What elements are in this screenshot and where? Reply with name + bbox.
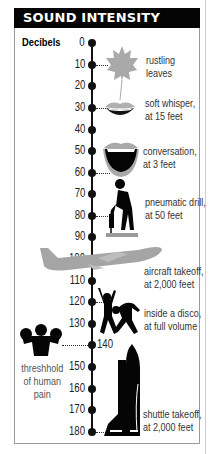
caption-pneumatic-drill: pneumatic drill, at 50 feet — [145, 196, 206, 222]
tick-label: 110 — [70, 273, 85, 287]
tick-label: 30 — [74, 100, 85, 114]
tick-dot — [88, 126, 96, 134]
tick-label: 20 — [74, 78, 85, 92]
tick-dot — [88, 428, 96, 436]
tick-dot — [88, 61, 96, 69]
caption-line: pain — [21, 388, 64, 401]
tick-dot — [88, 341, 96, 349]
caption-shuttle-takeoff: shuttle takeoff, at 2,000 feet — [143, 408, 202, 434]
tick-dot — [88, 385, 96, 393]
tick-label: 10 — [74, 57, 85, 71]
tick-dot — [88, 320, 96, 328]
tick-dot — [88, 233, 96, 241]
caption-line: pneumatic drill, — [145, 196, 206, 209]
caption-disco: inside a disco, at full volume — [144, 307, 201, 333]
tick-label: 120 — [69, 294, 85, 308]
caption-line: at full volume — [144, 320, 201, 333]
tick-label: 180 — [69, 424, 85, 438]
tick-label: 90 — [74, 229, 85, 243]
caption-line: inside a disco, — [144, 307, 201, 320]
tick-label: 40 — [74, 122, 85, 136]
caption-rustling-leaves: rustling leaves — [146, 54, 175, 80]
tick-dot — [88, 406, 96, 414]
leaf-icon — [104, 44, 140, 100]
caption-line: at 50 feet — [145, 209, 206, 222]
tick-dot — [88, 363, 96, 371]
tick-label: 150 — [69, 359, 85, 373]
tick-label: 160 — [69, 381, 85, 395]
caption-line: leaves — [146, 67, 175, 80]
caption-line: conversation, — [143, 145, 197, 158]
tick-dot — [88, 212, 96, 220]
tick-label: 50 — [74, 143, 85, 157]
tick-dot — [88, 169, 96, 177]
pain-figure-icon — [18, 324, 64, 356]
tick-label: 70 — [74, 186, 85, 200]
tick-label: 130 — [69, 316, 85, 330]
caption-line: threshhold — [21, 362, 64, 375]
caption-line: at 2,000 feet — [144, 278, 204, 291]
caption-line: of human — [21, 375, 64, 388]
caption-line: soft whisper, — [145, 97, 195, 110]
tick-dot — [88, 104, 96, 112]
tick-dot — [88, 147, 96, 155]
caption-line: at 2,000 feet — [143, 421, 202, 434]
caption-aircraft-takeoff: aircraft takeoff, at 2,000 feet — [144, 265, 204, 291]
tick-label: 0 — [80, 35, 85, 49]
open-mouth-icon — [102, 140, 140, 178]
tick-dot — [88, 190, 96, 198]
caption-conversation: conversation, at 3 feet — [143, 145, 197, 171]
caption-line: aircraft takeoff, — [144, 265, 204, 278]
caption-soft-whisper: soft whisper, at 15 feet — [145, 97, 195, 123]
caption-line: rustling — [146, 54, 175, 67]
tick-label: 60 — [74, 165, 85, 179]
y-axis-label: Decibels — [22, 36, 60, 48]
chart-title: SOUND INTENSITY — [23, 10, 160, 25]
dancers-icon — [96, 288, 142, 336]
leader-line — [62, 345, 88, 346]
tick-dot — [88, 39, 96, 47]
lips-icon — [104, 100, 136, 116]
caption-pain-threshold: threshhold of human pain — [21, 362, 64, 401]
caption-line: shuttle takeoff, — [143, 408, 202, 421]
tick-label: 80 — [74, 208, 85, 222]
caption-line: at 3 feet — [143, 158, 197, 171]
page-edge-rule — [205, 0, 206, 454]
title-bar: SOUND INTENSITY — [14, 8, 200, 28]
tick-dot — [88, 277, 96, 285]
drill-worker-icon — [106, 178, 140, 238]
caption-line: at 15 feet — [145, 110, 195, 123]
tick-dot — [88, 298, 96, 306]
tick-dot — [88, 82, 96, 90]
space-shuttle-icon — [104, 344, 142, 438]
tick-label: 170 — [69, 402, 85, 416]
